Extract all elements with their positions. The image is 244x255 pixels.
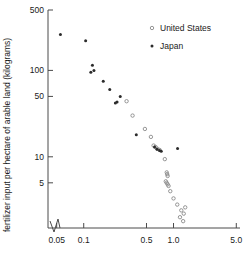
x-axis: 0.050.10.51.05.0 [48, 219, 242, 245]
data-point [184, 206, 187, 209]
y-tick-label-500: 500 [30, 5, 44, 15]
data-point [143, 127, 146, 130]
data-point [172, 197, 175, 200]
data-point [59, 33, 62, 36]
data-point [119, 95, 122, 98]
data-point [178, 216, 181, 219]
x-tick-marks [57, 223, 237, 228]
axis-break-icon [50, 219, 60, 232]
data-point [153, 145, 156, 148]
data-point [169, 189, 172, 192]
legend-marker-filled-circle-icon [151, 45, 154, 48]
chart-legend: United States Japan [150, 23, 211, 51]
data-point [92, 69, 95, 72]
data-point [91, 64, 94, 67]
data-point [176, 203, 179, 206]
y-tick-label-5: 5 [39, 178, 44, 188]
y-tick-labels: 50010050105 [30, 5, 44, 188]
x-tick-label-0.5: 0.5 [141, 235, 153, 245]
data-point [182, 212, 185, 215]
x-tick-label-0.1: 0.1 [78, 235, 90, 245]
y-tick-label-50: 50 [35, 91, 45, 101]
plot-canvas: 50010050105 0.050.10.51.05.0 United Stat… [0, 0, 244, 255]
x-tick-label-5.0: 5.0 [230, 235, 242, 245]
legend-marker-open-circle-icon [150, 26, 153, 29]
data-point [149, 135, 152, 138]
data-point [131, 114, 134, 117]
data-point [114, 101, 117, 104]
y-tick-label-100: 100 [30, 65, 44, 75]
scatter-chart-figure: 50010050105 0.050.10.51.05.0 United Stat… [0, 0, 244, 255]
series-united-states [125, 100, 187, 223]
data-point [84, 39, 87, 42]
y-tick-label-10: 10 [35, 152, 45, 162]
data-series-group [59, 33, 187, 223]
data-point [135, 133, 138, 136]
x-tick-labels: 0.050.10.51.05.0 [48, 235, 242, 245]
legend-label-united-states: United States [160, 23, 211, 33]
data-point [156, 148, 159, 151]
data-point [89, 71, 92, 74]
data-point [181, 219, 184, 222]
y-axis: 50010050105 [30, 5, 53, 228]
data-point [163, 157, 166, 160]
data-point [125, 100, 128, 103]
data-point [160, 150, 163, 153]
data-point [176, 147, 179, 150]
data-point [108, 88, 111, 91]
y-axis-title: fertilizer input per hectare of arable l… [2, 38, 12, 232]
data-point [180, 209, 183, 212]
x-tick-label-0.05: 0.05 [48, 235, 65, 245]
data-point [102, 80, 105, 83]
legend-label-japan: Japan [160, 41, 183, 51]
y-tick-marks [48, 10, 53, 183]
x-tick-label-1.0: 1.0 [168, 235, 180, 245]
